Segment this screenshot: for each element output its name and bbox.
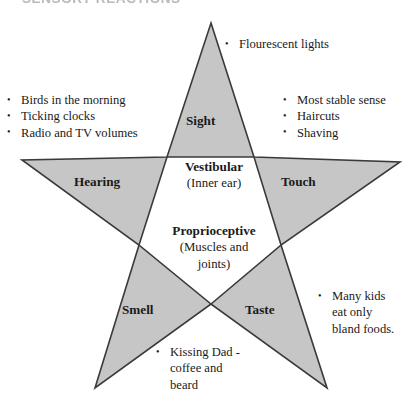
star-label-touch: Touch xyxy=(281,174,316,190)
star-label-sight: Sight xyxy=(186,113,215,129)
bullet-item: Most stable sense xyxy=(282,92,386,108)
star-label-hearing: Hearing xyxy=(74,174,120,190)
center-label-proprioceptive: Proprioceptive (Muscles and joints) xyxy=(145,222,283,272)
bullet-item: Many kids xyxy=(317,288,413,304)
center-label-head: Proprioceptive xyxy=(145,222,283,239)
center-label-sub-line1: (Muscles and xyxy=(145,239,283,256)
center-label-sub-line2: joints) xyxy=(145,256,283,273)
bullet-item: Ticking clocks xyxy=(6,108,138,124)
bullet-item: Haircuts xyxy=(282,108,386,124)
bullet-item: Radio and TV volumes xyxy=(6,125,138,141)
star-label-taste: Taste xyxy=(245,302,275,318)
bullets-taste: Many kids eat only bland foods. xyxy=(317,288,413,337)
bullets-touch: Most stable sense Haircuts Shaving xyxy=(282,92,386,141)
bullet-item-continuation: eat only xyxy=(317,304,413,320)
bullet-item-continuation: coffee and xyxy=(155,360,275,376)
center-label-sub: (Inner ear) xyxy=(159,175,269,192)
center-label-head: Vestibular xyxy=(159,158,269,175)
center-label-vestibular: Vestibular (Inner ear) xyxy=(159,158,269,192)
bullets-smell: Kissing Dad - coffee and beard xyxy=(155,344,275,393)
bullet-item-continuation: beard xyxy=(155,377,275,393)
bullet-item: Kissing Dad - xyxy=(155,344,275,360)
bullet-item: Flourescent lights xyxy=(224,36,329,52)
bullet-item-continuation: bland foods. xyxy=(317,321,413,337)
star-label-smell: Smell xyxy=(122,302,154,318)
bullets-hearing: Birds in the morning Ticking clocks Radi… xyxy=(6,92,138,141)
diagram-page: SENSORY REACTIONS Flourescent lights Bir… xyxy=(0,0,415,408)
bullet-item: Shaving xyxy=(282,125,386,141)
bullets-sight: Flourescent lights xyxy=(224,36,329,52)
bullet-item: Birds in the morning xyxy=(6,92,138,108)
